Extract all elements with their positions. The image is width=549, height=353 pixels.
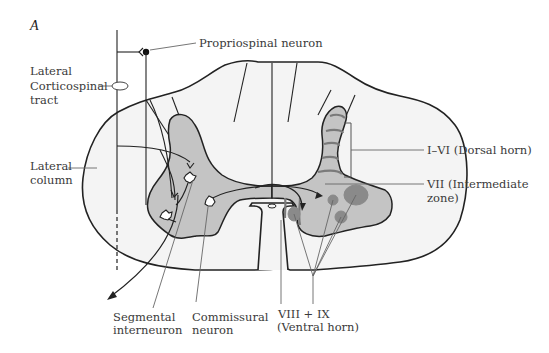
leader-propriospinal xyxy=(150,43,196,50)
label-commissural-line1: Commissural xyxy=(192,310,269,324)
label-lateral-column-line1: Lateral xyxy=(30,159,72,173)
label-corticospinal-line2: Corticospinal xyxy=(30,79,108,93)
label-dorsal-horn: I–VI (Dorsal horn) xyxy=(427,143,532,157)
label-segmental-line1: Segmental xyxy=(113,310,176,324)
spinal-cord-diagram: A xyxy=(0,0,549,353)
label-ventral-line2: (Ventral horn) xyxy=(277,320,359,334)
label-corticospinal-line3: tract xyxy=(30,93,58,107)
label-corticospinal-line1: Lateral xyxy=(30,64,72,78)
panel-label: A xyxy=(29,18,39,33)
label-intermediate-line2: zone) xyxy=(427,191,459,205)
propriospinal-synapse xyxy=(139,48,143,56)
label-lateral-column-line2: column xyxy=(30,173,73,187)
label-segmental-line2: interneuron xyxy=(113,323,183,337)
label-commissural-line2: neuron xyxy=(192,323,234,337)
corticospinal-tract-marker xyxy=(112,82,128,90)
label-ventral-line1: VIII + IX xyxy=(277,307,330,321)
label-propriospinal: Propriospinal neuron xyxy=(199,36,323,50)
label-intermediate-line1: VII (Intermediate xyxy=(426,177,529,191)
